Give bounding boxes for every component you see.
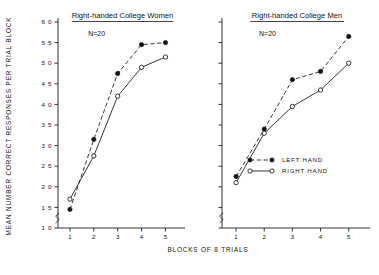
x-tick-label-men-2: 2	[263, 233, 267, 240]
x-tick-label-women-2: 2	[92, 233, 96, 240]
legend-label-right-hand: RIGHT HAND	[282, 167, 328, 174]
y-axis-break-men	[220, 213, 224, 223]
data-point-women-1-1	[68, 197, 72, 201]
panel-title-men: Right-handed College Men	[252, 11, 342, 20]
x-tick-label-men-3: 3	[291, 233, 295, 240]
data-point-women-1-2	[92, 154, 96, 158]
legend-marker-left-hand-end	[270, 158, 274, 162]
y-tick-label-3.5: 3 5	[42, 121, 52, 128]
legend-marker-right-hand-start	[248, 169, 252, 173]
y-tick-label-1.5: 1 5	[42, 204, 52, 211]
data-point-women-1-3	[116, 94, 120, 98]
data-point-women-0-4	[139, 43, 143, 47]
y-tick-label-5.5: 5 5	[42, 39, 52, 46]
data-point-women-1-4	[139, 65, 143, 69]
y-tick-label-4.5: 4 5	[42, 80, 52, 87]
panel-n-label-men: N=20	[259, 30, 276, 37]
legend-marker-right-hand-end	[270, 169, 274, 173]
data-point-men-0-4	[318, 69, 322, 73]
data-point-women-0-3	[116, 71, 120, 75]
data-point-women-0-2	[92, 137, 96, 141]
y-tick-label-3: 3 0	[42, 142, 52, 149]
data-point-women-1-5	[163, 55, 167, 59]
data-point-men-0-1	[234, 174, 238, 178]
data-point-men-1-5	[347, 61, 351, 65]
figure-container: 1 01 52 02 53 03 54 04 55 05 56 012345Ri…	[0, 0, 379, 275]
data-point-men-0-2	[262, 127, 266, 131]
data-point-men-1-3	[290, 104, 294, 108]
panel-n-label-women: N=20	[88, 30, 105, 37]
x-tick-label-men-4: 4	[319, 233, 323, 240]
data-point-men-1-1	[234, 181, 238, 185]
data-point-women-0-5	[163, 40, 167, 44]
data-point-men-1-2	[262, 131, 266, 135]
y-tick-label-4: 4 0	[42, 101, 52, 108]
data-point-women-0-1	[68, 207, 72, 211]
series-line-women-0	[70, 43, 166, 210]
x-axis-title: BLOCKS OF 8 TRIALS	[167, 246, 248, 253]
x-tick-label-men-1: 1	[234, 233, 238, 240]
x-tick-label-women-4: 4	[140, 233, 144, 240]
data-point-men-0-3	[290, 78, 294, 82]
legend: LEFT HANDRIGHT HAND	[248, 156, 328, 174]
legend-label-left-hand: LEFT HAND	[282, 156, 323, 163]
legend-marker-left-hand-start	[248, 158, 252, 162]
panel-men: 12345Right-handed College MenN=20	[219, 11, 371, 240]
x-tick-label-men-5: 5	[347, 233, 351, 240]
x-tick-label-women-5: 5	[164, 233, 168, 240]
y-tick-label-5: 5 0	[42, 59, 52, 66]
series-line-women-1	[70, 57, 166, 199]
y-axis-title: MEAN NUMBER CORRECT RESPONSES PER TRIAL …	[5, 17, 12, 236]
data-point-men-0-5	[347, 34, 351, 38]
y-tick-label-2.5: 2 5	[42, 162, 52, 169]
data-point-men-1-4	[318, 88, 322, 92]
y-tick-label-1: 1 0	[42, 224, 52, 231]
y-tick-label-6: 6 0	[42, 18, 52, 25]
panel-women: 1 01 52 02 53 03 54 04 55 05 56 012345Ri…	[42, 11, 185, 240]
dual-panel-line-chart: 1 01 52 02 53 03 54 04 55 05 56 012345Ri…	[0, 0, 379, 275]
x-tick-label-women-1: 1	[68, 233, 72, 240]
x-tick-label-women-3: 3	[116, 233, 120, 240]
panel-title-women: Right-handed College Women	[72, 11, 174, 20]
y-tick-label-2: 2 0	[42, 183, 52, 190]
y-axis-break-women	[56, 213, 60, 223]
